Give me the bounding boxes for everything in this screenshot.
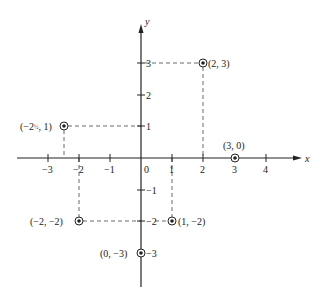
point-label-2-3: (2, 3): [208, 58, 230, 70]
axes: [17, 28, 298, 287]
y-axis-arrow-icon: [139, 24, 144, 33]
point-label-part: (−2: [20, 121, 34, 133]
x-tick-label: 1: [169, 164, 174, 175]
point-label-part: , 1): [38, 121, 51, 133]
point-label-0-neg3: (0, −3): [100, 248, 127, 260]
y-tick-label: 1: [146, 121, 151, 132]
y-tick-label: 2: [146, 90, 151, 101]
point-label-3-0: (3, 0): [223, 140, 245, 152]
point-neg2half-1: [60, 122, 68, 130]
y-tick-label: −2: [146, 216, 157, 227]
point-label-neg2-neg2: (−2, −2): [30, 216, 63, 228]
x-tick-label: 2: [200, 164, 205, 175]
x-tick-label: 0: [144, 164, 149, 175]
y-tick-label: −1: [146, 185, 157, 196]
point-2-3: [199, 59, 207, 67]
point-0-neg3: [137, 249, 145, 257]
x-tick-label: −3: [42, 164, 53, 175]
guide-lines: [64, 63, 203, 221]
point-label-neg2half-1: (−2½, 1): [20, 121, 52, 133]
x-axis-label: x: [304, 153, 310, 164]
point-3-0: [231, 154, 239, 162]
x-tick-label: 3: [232, 164, 237, 175]
x-tick-label: −1: [104, 164, 115, 175]
x-axis-arrow-icon: [293, 156, 302, 161]
x-tick-label: 4: [263, 164, 268, 175]
point-1-neg2: [168, 217, 176, 225]
y-tick-label: 3: [146, 58, 151, 69]
coordinate-plane: x y −3 −2 −1 0 1 2 3 4 3 2 1 −1 −2 −3: [0, 0, 325, 303]
y-axis-label: y: [144, 16, 150, 27]
y-tick-label: −3: [146, 248, 157, 259]
point-label-1-neg2: (1, −2): [178, 216, 205, 228]
point-neg2-neg2: [75, 217, 83, 225]
x-tick-label: −2: [73, 164, 84, 175]
